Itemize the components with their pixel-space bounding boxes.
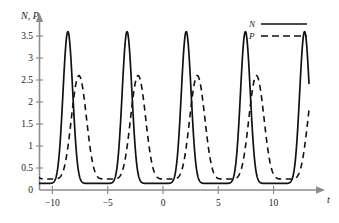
y-axis-title: N, P [20,10,39,21]
chart-figure: 00.511.522.533.5−10−50510 N, P t N P [0,0,339,223]
tick-labels: 00.511.522.533.5−10−50510 [21,31,278,208]
x-axis-tick-label: −5 [103,198,113,208]
x-axis-arrowhead [316,186,325,193]
y-axis-tick-label: 0.5 [21,163,33,173]
curve-n-solid [28,32,309,184]
y-axis-tick-label: 1.5 [21,119,33,129]
x-axis-tick-label: 5 [216,198,221,208]
curve-p-dashed [28,76,309,179]
y-axis-tick-label: 3 [28,53,33,63]
data-curves [28,32,309,184]
x-axis-tick-label: −10 [45,198,60,208]
legend: N P [248,19,307,41]
legend-label-n: N [248,19,256,29]
y-axis-tick-label: 3.5 [21,31,33,41]
x-axis-tick-label: 10 [269,198,279,208]
x-axis-title: t [327,194,330,205]
y-axis-tick-label: 1 [28,141,33,151]
y-axis-tick-label: 2.5 [21,75,33,85]
y-axis-tick-label: 2 [28,97,33,107]
y-axis-tick-label: 0 [28,185,33,195]
x-axis-tick-label: 0 [161,198,166,208]
legend-label-p: P [248,31,255,41]
predator-prey-oscillation-chart: 00.511.522.533.5−10−50510 N, P t N P [0,0,339,223]
